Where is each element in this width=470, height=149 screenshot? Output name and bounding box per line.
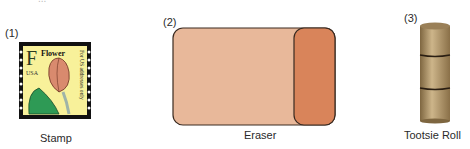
svg-text:F: F bbox=[26, 47, 37, 69]
item-number-3: (3) bbox=[404, 12, 417, 24]
eraser-image bbox=[172, 26, 337, 127]
stamp-illustration: F USA Flower For US addresses only bbox=[19, 42, 91, 119]
tootsie-roll-image bbox=[419, 22, 451, 124]
caption-stamp: Stamp bbox=[40, 132, 72, 144]
tootsie-roll-illustration bbox=[419, 22, 451, 124]
caption-tootsie-roll: Tootsie Roll bbox=[404, 129, 461, 141]
item-number-1: (1) bbox=[5, 27, 18, 39]
svg-text:USA: USA bbox=[26, 70, 39, 76]
caption-eraser: Eraser bbox=[244, 129, 276, 141]
cropped-text: ... bbox=[38, 0, 46, 4]
svg-text:For US addresses only: For US addresses only bbox=[79, 50, 85, 100]
svg-text:Flower: Flower bbox=[41, 49, 65, 58]
eraser-illustration bbox=[172, 26, 337, 127]
stamp-image: F USA Flower For US addresses only bbox=[19, 42, 91, 119]
